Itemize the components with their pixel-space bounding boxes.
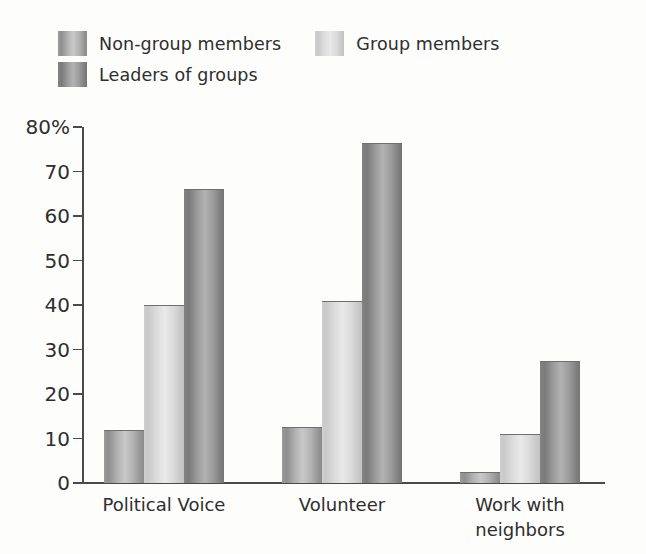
y-axis-tick [73,171,82,173]
y-axis-tick-label: 40 [45,293,70,317]
x-axis-category-labels: Political VoiceVolunteerWork withneighbo… [82,492,605,552]
bar-2-0 [184,189,224,483]
y-axis-tick [73,482,82,484]
y-axis-tick [73,438,82,440]
legend-item-non-group-members: Non-group members [58,31,281,56]
y-axis-tick-label: 50 [45,249,70,273]
x-axis-label-line: neighbors [420,517,620,542]
bar-chart: Non-group members Group members Leaders … [0,0,646,554]
y-axis-tick-label: 80% [26,115,70,139]
x-axis-label-line: Political Voice [64,492,264,517]
bar-1-1 [322,301,362,483]
legend-row-2: Leaders of groups [58,59,618,90]
legend-swatch-icon-leaders-of-groups [58,62,87,87]
legend-label-leaders-of-groups: Leaders of groups [99,65,258,85]
y-axis-tick [73,304,82,306]
legend-item-leaders-of-groups: Leaders of groups [58,62,258,87]
x-axis-label-line: Volunteer [242,492,442,517]
x-axis-label-line: Work with [420,492,620,517]
y-axis-tick-label: 70 [45,160,70,184]
legend-row-1: Non-group members Group members [58,28,618,59]
x-axis-label-0: Political Voice [64,492,264,517]
y-axis-tick [73,349,82,351]
legend-swatch-icon-group-members [315,31,344,56]
y-axis-tick-label: 20 [45,382,70,406]
bar-0-0 [104,430,144,483]
y-axis-tick-label: 30 [45,338,70,362]
chart-legend: Non-group members Group members Leaders … [58,28,618,90]
bar-0-1 [282,427,322,483]
y-axis-tick-label: 60 [45,204,70,228]
legend-swatch-icon-non-group-members [58,31,87,56]
y-axis-tick [73,393,82,395]
x-axis-label-1: Volunteer [242,492,442,517]
y-axis-tick [73,126,82,128]
y-axis-tick [73,260,82,262]
bar-1-2 [500,434,540,483]
bar-1-0 [144,305,184,483]
y-axis-tick [73,215,82,217]
legend-label-non-group-members: Non-group members [99,34,281,54]
plot-area [82,127,605,483]
bar-2-2 [540,361,580,483]
y-axis-tick-label: 10 [45,427,70,451]
legend-label-group-members: Group members [356,34,499,54]
x-axis-label-2: Work withneighbors [420,492,620,542]
bar-series-container [84,127,605,483]
bar-0-2 [460,472,500,483]
legend-item-group-members: Group members [315,31,499,56]
bar-2-1 [362,143,402,483]
